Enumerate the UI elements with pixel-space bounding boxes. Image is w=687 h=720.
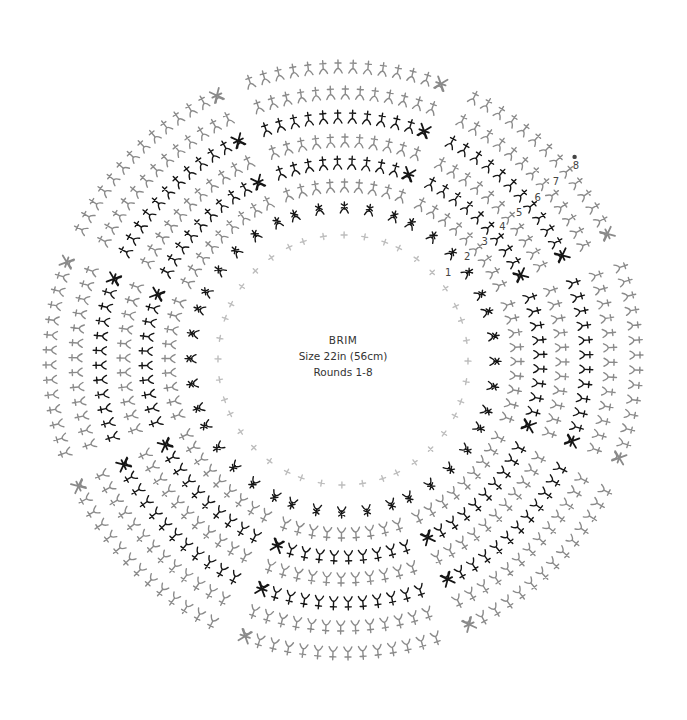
stitch-post-stitch [489,603,503,618]
stitch-post-stitch [190,547,204,562]
stitch-post-stitch [201,464,216,478]
stitch-cluster-star [271,216,283,229]
stitch-post-stitch [366,619,375,633]
stitch-post-stitch [47,405,61,415]
round-number-1: 1 [445,267,451,278]
stitch-chain-plus [283,468,291,476]
stitch-post-stitch [141,389,155,399]
stitch-post-stitch [408,611,419,626]
stitch-post-stitch [526,165,541,180]
stitch-post-stitch [592,430,607,441]
stitch-post-stitch [485,444,500,458]
stitch-post-stitch [159,265,174,278]
increase-stitch [271,538,284,553]
stitch-post-stitch [555,200,570,214]
stitch-post-stitch [547,557,562,572]
stitch-post-stitch [278,564,289,579]
stitch-post-stitch [96,316,110,326]
stitch-cluster-star [426,230,439,244]
stitch-post-stitch [589,269,604,281]
stitch-post-stitch [329,597,337,610]
stitch-post-stitch [379,568,389,582]
stitch-post-stitch [446,516,460,531]
stitch-cluster-star [213,264,227,277]
stitch-post-stitch [555,343,568,352]
stitch-post-stitch [282,140,293,155]
increase-stitch [251,175,265,190]
stitch-post-stitch [427,203,441,218]
stitch-post-stitch [575,522,590,536]
stitch-post-stitch [556,358,569,366]
stitch-post-stitch [603,373,616,382]
stitch-post-stitch [517,122,531,137]
stitch-post-stitch [311,135,321,149]
stitch-post-stitch [548,235,563,248]
stitch-post-stitch [573,408,587,419]
stitch-post-stitch [436,495,450,510]
stitch-cluster-star [445,246,458,259]
stitch-post-stitch [96,184,111,198]
stitch-cluster-star [386,498,397,511]
stitch-post-stitch [456,536,470,551]
stitch-post-stitch [261,195,274,210]
increase-stitch [238,629,251,644]
stitch-post-stitch [511,521,526,536]
stitch-post-stitch [138,496,153,510]
stitch-chain-plus [250,443,258,451]
stitch-post-stitch [510,371,524,380]
stitch-cluster-star [192,403,205,414]
stitch-post-stitch [602,387,616,396]
increase-stitch [417,124,430,139]
stitch-chain-plus [221,314,229,322]
stitch-post-stitch [101,418,116,429]
stitch-post-stitch [322,572,331,586]
stitch-post-stitch [78,425,93,436]
stitch-post-stitch [468,528,482,543]
stitch-post-stitch [311,87,320,101]
stitch-post-stitch [124,232,139,245]
stitch-post-stitch [228,570,241,585]
stitch-post-stitch [322,527,331,541]
stitch-cluster-star [362,505,372,517]
stitch-post-stitch [211,475,226,490]
stitch-post-stitch [215,563,228,578]
stitch-post-stitch [349,60,357,73]
stitch-post-stitch [389,162,400,177]
stitch-post-stitch [525,577,539,592]
stitch-post-stitch [307,570,317,584]
stitch-post-stitch [164,325,178,335]
stitch-post-stitch [365,525,375,539]
stitch-post-stitch [478,253,493,267]
stitch-post-stitch [308,525,318,539]
stitch-post-stitch [193,155,207,170]
stitch-chain-plus [412,255,420,263]
stitch-post-stitch [586,201,601,215]
stitch-post-stitch [604,358,617,366]
stitch-post-stitch [341,134,349,147]
stitch-post-stitch [509,488,524,502]
stitch-post-stitch [337,621,345,634]
stitch-post-stitch [500,412,515,424]
stitch-cluster-star [229,244,242,257]
stitch-post-stitch [530,393,544,403]
stitch-post-stitch [580,365,593,373]
stitch-post-stitch [501,299,516,311]
stitch-post-stitch [534,365,547,374]
stitch-post-stitch [252,99,264,114]
stitch-post-stitch [486,265,501,278]
stitch-post-stitch [505,145,519,160]
stitch-post-stitch [296,137,306,151]
stitch-post-stitch [597,298,611,309]
stitch-post-stitch [546,188,561,202]
stitch-post-stitch [499,499,514,514]
stitch-post-stitch [413,96,424,111]
stitch-post-stitch [235,522,249,537]
stitch-post-stitch [70,383,84,392]
increase-stitch [462,617,476,632]
stitch-post-stitch [505,113,519,128]
stitch-post-stitch [246,502,260,517]
stitch-post-stitch [43,361,56,369]
stitch-post-stitch [598,484,613,497]
stitch-post-stitch [262,609,273,624]
stitch-post-stitch [281,91,292,105]
